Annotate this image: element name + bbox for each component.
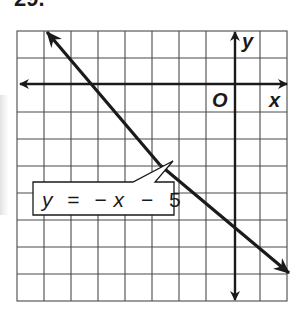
y-axis-label: y (241, 30, 254, 52)
eq-x: x (113, 188, 126, 211)
function-line (47, 32, 289, 273)
eq-five: 5 (169, 188, 181, 211)
x-axis-label: x (268, 89, 281, 111)
eq-equals: = (67, 188, 79, 211)
origin-label: O (212, 89, 228, 111)
eq-y: y (40, 188, 54, 211)
equation-callout: y = − x − 5 (33, 161, 181, 215)
eq-minus-1: − (94, 188, 106, 211)
coordinate-graph: y x O y = − x − 5 (0, 0, 297, 315)
eq-minus-2: − (141, 188, 153, 211)
grid (17, 31, 287, 301)
